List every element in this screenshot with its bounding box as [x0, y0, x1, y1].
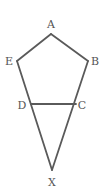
segment-bx: [52, 61, 88, 170]
label-c: C: [78, 99, 86, 112]
segment-ex: [17, 61, 52, 170]
segment-ab: [51, 34, 88, 61]
label-d: D: [18, 99, 27, 112]
label-e: E: [5, 55, 13, 68]
segment-ae: [17, 34, 51, 61]
label-x: X: [48, 176, 56, 189]
label-b: B: [91, 55, 99, 68]
pentagon-triangle-diagram: A E B D C X: [0, 0, 102, 195]
label-a: A: [46, 18, 56, 31]
